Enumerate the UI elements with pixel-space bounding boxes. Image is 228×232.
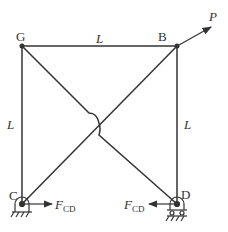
- node-label-D: D: [181, 187, 190, 202]
- load-arrow-P: [179, 27, 211, 45]
- node-label-G: G: [16, 29, 25, 44]
- force-label-C: FCD: [54, 197, 76, 214]
- dimension-label-top: L: [95, 31, 103, 46]
- truss-members: [22, 46, 177, 204]
- truss-diagram: G B C D L L L P FCD FCD: [0, 0, 228, 232]
- dimension-label-left: L: [6, 117, 14, 132]
- joint-G: [20, 44, 25, 49]
- force-label-D: FCD: [123, 197, 145, 214]
- joint-B: [175, 44, 180, 49]
- node-label-B: B: [158, 29, 167, 44]
- dimension-label-right: L: [183, 117, 191, 132]
- node-label-C: C: [9, 188, 18, 203]
- load-label-P: P: [208, 9, 217, 24]
